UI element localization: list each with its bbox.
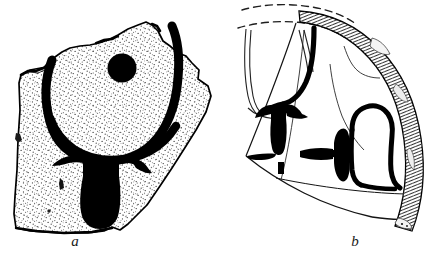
rim-band-speck-1 [401, 223, 403, 225]
anchor-tick-below-left [278, 162, 284, 174]
plate-canvas: a [0, 0, 445, 259]
sherd-a-flaw-dot [47, 209, 50, 212]
anchor-motif-right-stem [300, 148, 333, 160]
filled-disc-motif [108, 54, 137, 83]
figure-label-a: a [71, 233, 79, 249]
figure-label-b: b [351, 233, 359, 249]
illustration-plate: a [0, 0, 445, 259]
rim-band-speck-2 [406, 225, 408, 227]
